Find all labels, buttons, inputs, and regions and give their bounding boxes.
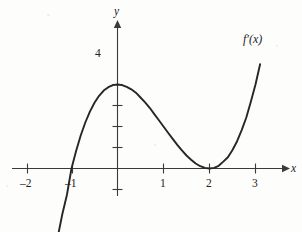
x-axis-arrowhead: [282, 165, 290, 172]
scan-speck: [47, 14, 50, 16]
y-axis-label: y: [114, 6, 119, 18]
f-prime-of-x-curve-label: f′(x): [243, 33, 262, 45]
x-tick-label-1: 1: [160, 178, 166, 190]
x-axis-label: x: [291, 163, 296, 175]
y-axis-arrowhead: [114, 20, 121, 28]
y-axis-group: [113, 20, 123, 196]
x-tick-label-2: 2: [206, 178, 212, 190]
y-tick-label-4: 4: [95, 48, 101, 60]
scan-speck: [154, 144, 156, 146]
x-tick-label--2: –2: [20, 178, 32, 190]
graph-figure: y x 4 –2 –1 1 2 3 f′(x): [0, 0, 302, 232]
scan-speck: [6, 185, 8, 187]
x-tick-label-3: 3: [252, 178, 258, 190]
x-axis-group: [12, 164, 290, 174]
x-tick-label--1: –1: [65, 178, 77, 190]
scan-speck: [276, 45, 278, 47]
function-curve: [58, 64, 260, 232]
